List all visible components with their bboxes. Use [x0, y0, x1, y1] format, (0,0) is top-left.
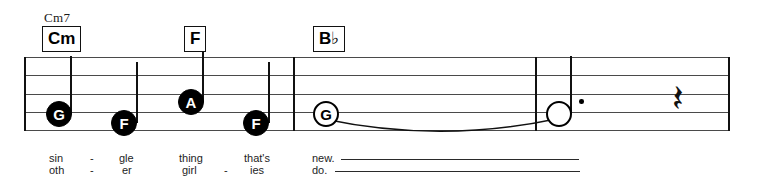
note-g1-stem	[70, 56, 72, 114]
note-a1-stem	[202, 52, 204, 102]
lyric-1-4: that's	[244, 152, 270, 164]
lyric-1-2: gle	[119, 152, 134, 164]
lyric-2-5: do.	[312, 164, 327, 176]
sheet-music-system: Cm7CmFB♭ GFAFG𝄽 sin-glethingthat'snew.ot…	[0, 0, 765, 193]
note-g1[interactable]: G	[46, 101, 72, 127]
barline-2	[535, 57, 537, 131]
lyric-1-1: sin	[49, 152, 63, 164]
lyric-1-hyphen-1: -	[90, 152, 94, 164]
note-f1-stem	[136, 62, 138, 123]
lyric-extender-1	[341, 159, 579, 160]
note-f2-stem	[268, 62, 270, 123]
chord-cm[interactable]: Cm	[42, 26, 81, 52]
chord-f[interactable]: F	[184, 26, 206, 52]
note-f2[interactable]: F	[243, 110, 269, 136]
note-tied-augmentation-dot	[579, 99, 584, 104]
lyric-2-2: er	[122, 164, 132, 176]
quarter-rest: 𝄽	[672, 79, 684, 117]
lyric-2-3: girl	[182, 164, 197, 176]
staff-line	[24, 75, 729, 76]
note-tied-stem	[570, 56, 572, 114]
note-g2[interactable]: G	[313, 101, 339, 127]
staff-line	[24, 94, 729, 95]
barline-end	[728, 57, 730, 131]
lyric-2-hyphen-2: -	[224, 164, 228, 176]
lyric-2-4: ies	[250, 164, 264, 176]
lyric-1-3: thing	[179, 152, 203, 164]
lyric-extender-2	[335, 171, 580, 172]
note-a1[interactable]: A	[178, 89, 204, 115]
chord-bb-flat-sign: ♭	[331, 29, 339, 48]
note-tied[interactable]	[546, 101, 572, 127]
lyric-1-5: new.	[312, 152, 335, 164]
tie-g-to-held	[324, 118, 556, 140]
chord-cm7[interactable]: Cm7	[44, 10, 70, 26]
chord-bb[interactable]: B♭	[313, 26, 345, 52]
barline-start	[24, 57, 26, 131]
lyric-2-1: oth	[49, 164, 64, 176]
note-f1[interactable]: F	[111, 110, 137, 136]
staff-line	[24, 57, 729, 58]
barline-1	[293, 57, 295, 131]
lyric-2-hyphen-1: -	[90, 164, 94, 176]
